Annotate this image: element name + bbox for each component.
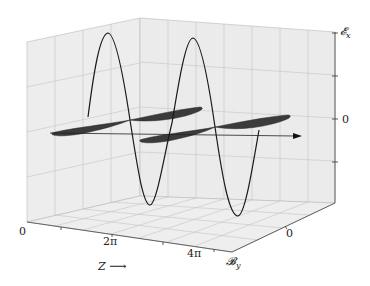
left-wall-pane <box>27 18 140 222</box>
by-zero-tick-label: 0 <box>286 228 293 239</box>
ez-subscript: x <box>346 31 351 40</box>
ez-axis-label: 𝓔x <box>340 26 351 40</box>
z-tick-4pi: 4π <box>187 248 201 259</box>
3d-wave-plot <box>0 0 370 286</box>
z-tick-2pi: 2π <box>103 236 117 247</box>
z-axis-label: Z ⟶ <box>98 260 126 272</box>
z-tick-0: 0 <box>19 226 26 237</box>
by-symbol: 𝓑 <box>226 255 236 268</box>
back-wall-pane <box>140 18 335 203</box>
by-axis-label: 𝓑y <box>226 256 241 270</box>
ez-zero-tick-label: 0 <box>342 114 349 125</box>
z-arrow-icon: ⟶ <box>109 259 126 273</box>
by-subscript: y <box>236 261 241 270</box>
z-symbol: Z <box>98 260 106 273</box>
